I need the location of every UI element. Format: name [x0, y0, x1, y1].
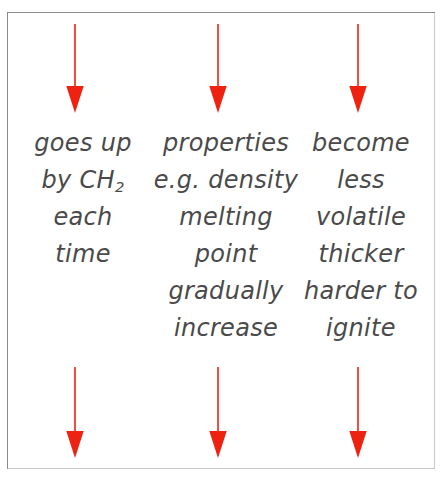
column-2-line-6: increase: [146, 310, 306, 347]
bottom-arrow-3: [343, 367, 373, 459]
column-3-line-2: less: [286, 162, 436, 199]
text-columns: goes up by CH2 each time properties e.g.…: [8, 125, 435, 365]
column-3-line-6: ignite: [286, 310, 436, 347]
diagram-canvas: goes up by CH2 each time properties e.g.…: [0, 0, 446, 484]
column-1: goes up by CH2 each time: [3, 125, 163, 273]
column-1-line-2-main: by CH: [42, 166, 115, 194]
column-1-line-4: time: [3, 236, 163, 273]
column-2: properties e.g. density melting point gr…: [146, 125, 306, 347]
top-arrow-2: [203, 24, 233, 114]
top-arrow-3: [343, 24, 373, 114]
column-3-line-4: thicker: [286, 236, 436, 273]
column-3-line-1: become: [286, 125, 436, 162]
column-3: become less volatile thicker harder to i…: [286, 125, 436, 347]
column-1-line-1: goes up: [3, 125, 163, 162]
column-1-line-2: by CH2: [3, 162, 163, 199]
column-2-line-2: e.g. density: [146, 162, 306, 199]
bottom-arrow-2: [203, 367, 233, 459]
column-2-line-4: point: [146, 236, 306, 273]
column-3-line-3: volatile: [286, 199, 436, 236]
column-1-line-2-subscript: 2: [115, 178, 124, 196]
column-3-line-5: harder to: [286, 273, 436, 310]
column-1-line-3: each: [3, 199, 163, 236]
column-2-line-3: melting: [146, 199, 306, 236]
bottom-arrow-1: [60, 367, 90, 459]
column-2-line-5: gradually: [146, 273, 306, 310]
column-2-line-1: properties: [146, 125, 306, 162]
top-arrow-1: [60, 24, 90, 114]
